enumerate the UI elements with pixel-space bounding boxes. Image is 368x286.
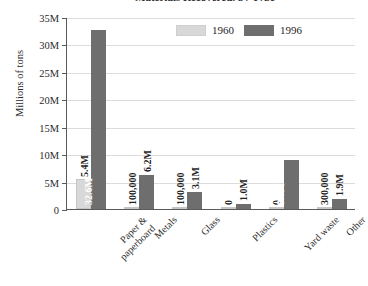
y-axis-tick (62, 183, 67, 184)
y-axis-tick (62, 100, 67, 101)
y-axis-tick-label: 35M (39, 13, 59, 24)
legend-swatch-icon-1960 (176, 25, 206, 36)
chart-title: Materials Recovered, by Type (100, 0, 310, 1)
bar-value-label: 32.6M (83, 178, 94, 205)
bar-value-label: 3.1M (190, 167, 201, 189)
legend-swatch-icon-1996 (244, 25, 274, 36)
y-axis-label: Millions of tons (14, 29, 25, 139)
gridline (67, 45, 355, 46)
bar-value-label: 100,000 (127, 173, 138, 206)
x-axis-label: Other (344, 214, 368, 238)
plot-area: 05M10M15M20M25M30M35M 5.4M32.6M100,0006.… (66, 18, 355, 210)
y-axis-tick (62, 210, 67, 211)
bar-value-label: 6.2M (142, 150, 153, 172)
bar-1960-5: 0 (269, 207, 284, 209)
x-axis-label: Yard waste (302, 214, 341, 253)
gridline (67, 18, 355, 19)
y-axis-tick (62, 18, 67, 19)
bar-value-label: 1.0M (238, 179, 249, 201)
bar-1960-6: 300,000 (317, 207, 332, 209)
bar-1996-3: 3.1M (187, 192, 202, 209)
gridline (67, 100, 355, 101)
y-axis-tick (62, 128, 67, 129)
legend-label-1996: 1996 (280, 24, 302, 36)
gridline (67, 128, 355, 129)
bar-1996-5: 9.0M (284, 160, 299, 209)
y-axis-tick (62, 45, 67, 46)
y-axis-tick-label: 15M (39, 122, 59, 133)
legend-item-1996: 1996 (244, 24, 302, 36)
bar-1996-1: 32.6M (91, 30, 106, 209)
bar-value-label: 1.9M (334, 174, 345, 196)
legend: 1960 1996 (176, 24, 302, 36)
legend-label-1960: 1960 (212, 24, 234, 36)
bar-1960-2: 100,000 (124, 207, 139, 209)
y-axis-tick-label: 20M (39, 95, 59, 106)
y-axis-tick (62, 155, 67, 156)
legend-item-1960: 1960 (176, 24, 234, 36)
bar-1960-4: 0 (221, 207, 236, 209)
gridline (67, 183, 355, 184)
gridline (67, 155, 355, 156)
bar-1996-6: 1.9M (332, 199, 347, 209)
gridline (67, 73, 355, 74)
y-axis-tick-label: 10M (39, 150, 59, 161)
y-axis-tick-label: 25M (39, 67, 59, 78)
x-axis-label: Metals (152, 214, 179, 241)
x-axis-label: Glass (199, 214, 223, 238)
y-axis-tick (62, 73, 67, 74)
y-axis-tick-label: 30M (39, 40, 59, 51)
y-axis-tick-label: 0 (54, 205, 59, 216)
bar-value-label: 100,000 (175, 173, 186, 206)
bar-value-label: 9.0M (275, 183, 286, 205)
x-axis-label: Plastics (250, 214, 280, 244)
y-axis-tick-label: 5M (44, 177, 59, 188)
x-axis-label: Paper & paperboard (109, 214, 157, 262)
bar-1960-3: 100,000 (172, 207, 187, 209)
bar-value-label: 300,000 (319, 173, 330, 206)
bar-1996-2: 6.2M (139, 175, 154, 209)
bar-1996-4: 1.0M (236, 204, 251, 209)
bar-value-label: 0 (223, 200, 234, 205)
bar-value-label: 5.4M (79, 155, 90, 177)
